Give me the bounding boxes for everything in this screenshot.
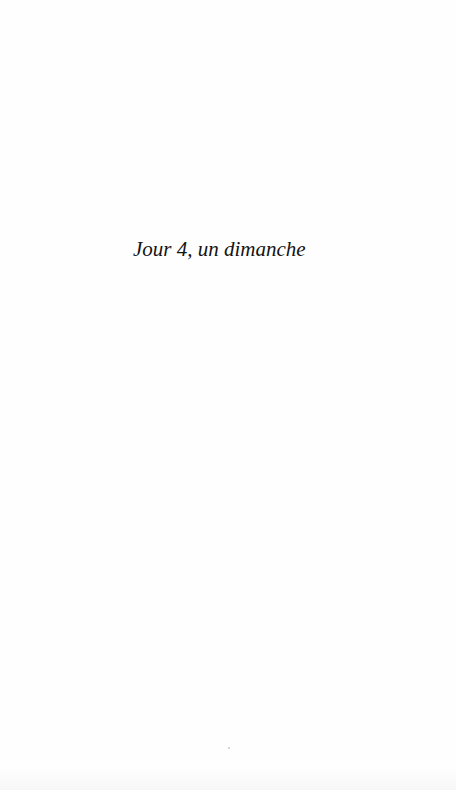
book-page: Jour 4, un dimanche bbox=[0, 0, 456, 790]
scan-speck bbox=[228, 747, 230, 749]
chapter-title: Jour 4, un dimanche bbox=[133, 236, 306, 262]
page-bottom-edge bbox=[0, 768, 456, 790]
